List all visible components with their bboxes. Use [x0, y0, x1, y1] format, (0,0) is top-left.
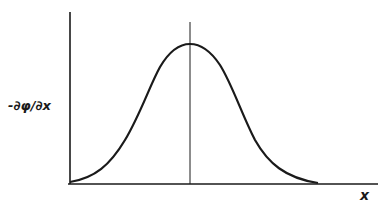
x-axis-label: x	[359, 187, 370, 203]
y-axis-label: -∂φ/∂x	[8, 98, 51, 113]
plot-canvas: -∂φ/∂x x	[0, 0, 388, 208]
bell-curve	[70, 44, 318, 183]
